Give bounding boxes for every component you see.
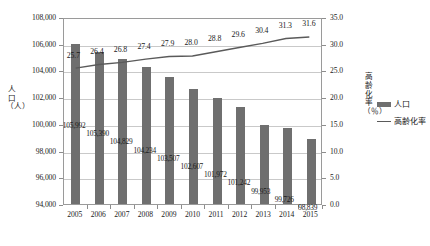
- bar-value-label: 98,839: [298, 204, 317, 211]
- right-tick-label: 20.0: [330, 94, 366, 102]
- x-tick-mark: [275, 205, 276, 209]
- left-tick-label: 102,000: [10, 94, 56, 102]
- bar-value-label: 105,390: [86, 130, 109, 137]
- right-tick-mark: [322, 178, 326, 179]
- bar-value-label: 104,829: [110, 138, 133, 145]
- bar-value-label: 104,234: [133, 147, 156, 154]
- right-tick-mark: [322, 125, 326, 126]
- line-value-label: 27.9: [161, 40, 174, 48]
- x-tick-mark: [110, 205, 111, 209]
- legend-item-population: 人口: [377, 96, 426, 113]
- bar-value-label: 99,726: [275, 196, 294, 203]
- legend: 人口 高齢化率: [377, 96, 426, 130]
- line-value-label: 31.3: [279, 22, 292, 30]
- bar-value-label: 103,507: [157, 155, 180, 162]
- line-value-label: 28.8: [208, 35, 221, 43]
- right-tick-mark: [322, 152, 326, 153]
- bar-value-label: 102,607: [181, 163, 204, 170]
- left-tick-mark: [59, 205, 63, 206]
- left-tick-label: 100,000: [10, 121, 56, 129]
- right-tick-label: 15.0: [330, 121, 366, 129]
- bar-value-label: 105,992: [63, 122, 86, 129]
- bar-value-label: 99,953: [251, 188, 270, 195]
- line-value-label: 29.6: [232, 31, 245, 39]
- right-tick-label: 25.0: [330, 67, 366, 75]
- right-tick-label: 30.0: [330, 41, 366, 49]
- x-tick-mark: [157, 205, 158, 209]
- x-tick-mark: [134, 205, 135, 209]
- legend-bar-swatch-icon: [377, 102, 391, 107]
- right-tick-label: 0.0: [330, 201, 366, 209]
- right-tick-label: 5.0: [330, 174, 366, 182]
- left-tick-label: 108,000: [10, 14, 56, 22]
- left-tick-label: 104,000: [10, 67, 56, 75]
- x-tick-mark: [228, 205, 229, 209]
- x-tick-label: 2015: [295, 211, 325, 219]
- right-tick-label: 10.0: [330, 148, 366, 156]
- line-value-label: 25.7: [67, 52, 80, 60]
- line-value-label: 26.8: [114, 46, 127, 54]
- line-value-label: 27.4: [137, 43, 150, 51]
- left-tick-label: 106,000: [10, 41, 56, 49]
- legend-label-aging-rate: 高齢化率: [394, 118, 426, 126]
- x-tick-mark: [181, 205, 182, 209]
- line-value-label: 28.0: [185, 39, 198, 47]
- right-tick-mark: [322, 98, 326, 99]
- x-tick-mark: [251, 205, 252, 209]
- bar-value-label: 101,972: [204, 171, 227, 178]
- line-value-label: 26.4: [90, 48, 103, 56]
- line-value-label: 31.6: [302, 20, 315, 28]
- right-tick-mark: [322, 18, 326, 19]
- left-tick-label: 98,000: [10, 148, 56, 156]
- right-tick-mark: [322, 45, 326, 46]
- left-tick-label: 94,000: [10, 201, 56, 209]
- population-aging-rate-chart: 人口（人） 高齢化率（％） 94,00096,00098,000100,0001…: [0, 0, 430, 246]
- legend-item-aging-rate: 高齢化率: [377, 113, 426, 130]
- right-tick-label: 35.0: [330, 14, 366, 22]
- x-tick-mark: [87, 205, 88, 209]
- x-tick-mark: [204, 205, 205, 209]
- right-tick-mark: [322, 71, 326, 72]
- line-value-label: 30.4: [255, 27, 268, 35]
- legend-label-population: 人口: [394, 101, 410, 109]
- legend-line-swatch-icon: [377, 121, 391, 122]
- left-tick-label: 96,000: [10, 174, 56, 182]
- x-tick-mark: [322, 205, 323, 209]
- bar-value-label: 101,242: [228, 179, 251, 186]
